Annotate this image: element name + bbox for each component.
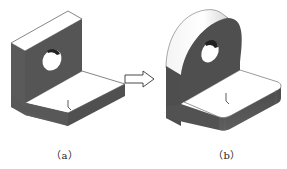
figure-canvas [0,0,287,169]
bracket-a [11,11,125,126]
caption-a: （a） [51,147,78,162]
caption-b: （b） [213,147,241,162]
arrow-right-icon [125,71,154,87]
transform-arrow [125,71,154,87]
bracket-b [166,10,281,131]
